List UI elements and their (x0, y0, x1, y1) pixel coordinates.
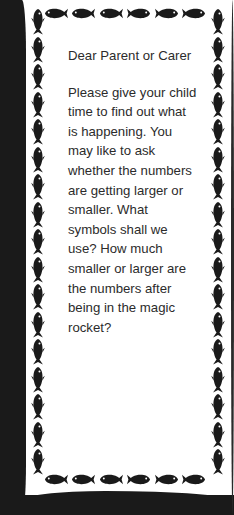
fish-icon (126, 7, 151, 20)
fish-icon (30, 146, 46, 174)
fish-icon (154, 473, 179, 486)
fish-icon (210, 146, 226, 174)
fish-icon (210, 63, 226, 91)
fish-icon (210, 338, 226, 366)
fish-icon (30, 256, 46, 284)
frame-right-line (231, 0, 234, 515)
fish-icon (30, 173, 46, 201)
fish-icon (210, 283, 226, 311)
fish-icon (210, 36, 226, 64)
fish-icon (30, 201, 46, 229)
fish-icon (99, 473, 124, 486)
fish-icon (181, 473, 206, 486)
fish-icon (30, 311, 46, 339)
fish-icon (30, 36, 46, 64)
fish-icon (30, 421, 46, 449)
fish-icon (30, 8, 46, 36)
fish-icon (30, 283, 46, 311)
fish-icon (99, 7, 124, 20)
fish-icon (181, 7, 206, 20)
fish-icon (30, 118, 46, 146)
fish-icon (30, 63, 46, 91)
fish-icon (210, 448, 226, 476)
fish-icon (210, 393, 226, 421)
fish-icon (30, 366, 46, 394)
fish-icon (210, 118, 226, 146)
fish-icon (210, 201, 226, 229)
fish-icon (210, 91, 226, 119)
fish-icon (71, 473, 96, 486)
fish-icon (30, 91, 46, 119)
fish-icon (210, 8, 226, 36)
fish-icon (44, 473, 69, 486)
fish-icon (30, 338, 46, 366)
fish-icon (30, 448, 46, 476)
fish-border-right (210, 8, 226, 476)
fish-border-top (44, 7, 206, 20)
fish-icon (30, 228, 46, 256)
letter-body: Please give your child time to find out … (68, 83, 198, 338)
fish-icon (71, 7, 96, 20)
parent-letter: Dear Parent or Carer Please give your ch… (68, 46, 198, 337)
fish-icon (210, 366, 226, 394)
black-frame-bottom-wave (20, 491, 234, 501)
fish-icon (210, 228, 226, 256)
letter-greeting: Dear Parent or Carer (68, 46, 198, 66)
fish-icon (44, 7, 69, 20)
black-frame-left-edge (18, 0, 26, 515)
fish-icon (210, 311, 226, 339)
fish-border-bottom (44, 473, 206, 486)
fish-icon (154, 7, 179, 20)
fish-icon (210, 173, 226, 201)
fish-icon (30, 393, 46, 421)
fish-icon (210, 256, 226, 284)
fish-icon (210, 421, 226, 449)
fish-icon (126, 473, 151, 486)
fish-border-left (30, 8, 46, 476)
